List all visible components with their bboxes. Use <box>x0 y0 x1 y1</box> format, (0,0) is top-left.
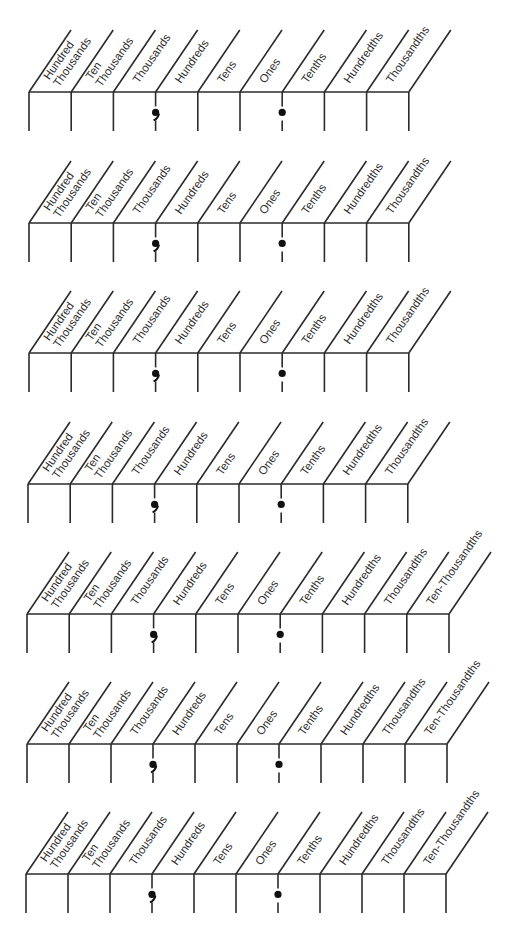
comma-separator-icon <box>149 761 156 773</box>
column-header-label: Tenths <box>299 50 328 85</box>
column-header-label: Ten-Thousandths <box>421 787 482 867</box>
column-header-label: Ten-Thousandths <box>422 657 483 737</box>
column-header-label: Hundreds <box>173 168 212 216</box>
column-header-label: Hundreds <box>173 298 212 346</box>
column-header-label: TenThousands <box>83 159 135 220</box>
column-header-label: Ones <box>254 708 280 738</box>
column-header-label: HundredThousands <box>41 28 93 89</box>
comma-separator-icon <box>152 240 159 252</box>
column-header-label: TenThousands <box>83 289 135 350</box>
decimal-point-icon <box>279 240 286 247</box>
column-header-label: Tenths <box>299 181 328 216</box>
comma-separator-icon <box>151 501 158 513</box>
header-diagonal <box>194 812 236 874</box>
column-header-label: TenThousands <box>83 28 135 89</box>
decimal-point-icon <box>277 631 284 638</box>
place-value-chart: HundredThousandsTenThousandsThousandsHun… <box>29 285 451 392</box>
decimal-point-icon <box>274 891 281 898</box>
comma-separator-icon <box>152 370 159 382</box>
decimal-point-icon <box>275 761 282 768</box>
comma-separator-icon <box>150 631 157 643</box>
header-diagonal <box>198 291 240 353</box>
column-header-label: HundredThousands <box>40 420 92 481</box>
header-diagonal <box>197 422 239 484</box>
header-diagonal <box>196 552 238 614</box>
header-diagonal <box>198 30 240 92</box>
column-header-label: Tenths <box>296 702 325 737</box>
column-header-label: Hundreds <box>169 819 208 867</box>
header-diagonal <box>195 682 237 744</box>
column-header-label: Hundreds <box>171 559 210 607</box>
column-header-label: TenThousands <box>81 550 133 611</box>
place-value-worksheet: HundredThousandsTenThousandsThousandsHun… <box>0 0 519 929</box>
column-header-label: Hundreds <box>173 37 212 85</box>
place-value-chart: HundredThousandsTenThousandsThousandsHun… <box>29 155 451 262</box>
column-header-label: HundredThousands <box>39 550 91 611</box>
column-header-label: HundredThousands <box>41 289 93 350</box>
column-header-label: Tenths <box>299 311 328 346</box>
place-value-chart: HundredThousandsTenThousandsThousandsHun… <box>27 657 489 783</box>
column-header-label: Tenths <box>298 442 327 477</box>
decimal-point-icon <box>279 370 286 377</box>
column-header-label: Ones <box>253 838 279 868</box>
header-diagonal <box>198 161 240 223</box>
comma-separator-icon <box>148 891 155 903</box>
column-header-label: Hundreds <box>170 689 209 737</box>
place-value-chart: HundredThousandsTenThousandsThousandsHun… <box>29 24 451 131</box>
decimal-point-icon <box>279 109 286 116</box>
comma-separator-icon <box>152 109 159 121</box>
column-header-label: Tenths <box>297 572 326 607</box>
column-header-label: Tenths <box>295 832 324 867</box>
column-header-label: TenThousands <box>82 420 134 481</box>
column-header-label: Ten-Thousandths <box>424 527 485 607</box>
place-value-chart: HundredThousandsTenThousandsThousandsHun… <box>28 416 450 523</box>
decimal-point-icon <box>278 501 285 508</box>
column-header-label: HundredThousands <box>41 159 93 220</box>
column-header-label: Hundreds <box>172 429 211 477</box>
place-value-chart: HundredThousandsTenThousandsThousandsHun… <box>26 787 488 913</box>
place-value-chart: HundredThousandsTenThousandsThousandsHun… <box>27 527 491 653</box>
